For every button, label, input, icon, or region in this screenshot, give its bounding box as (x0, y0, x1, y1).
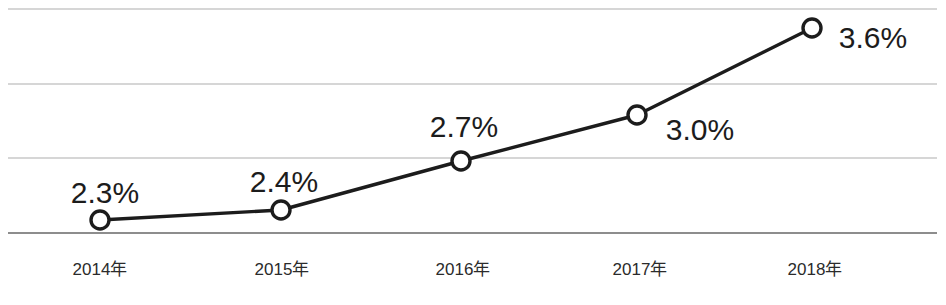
data-value-labels-group: 2.3%2.4%2.7%3.0%3.6% (71, 21, 907, 209)
data-value-label: 2.3% (71, 176, 139, 209)
x-axis-tick-label: 2015年 (255, 260, 310, 279)
line-chart-container: 2.3%2.4%2.7%3.0%3.6% 2014年2015年2016年2017… (0, 0, 946, 305)
data-point-marker[interactable] (91, 211, 109, 229)
data-value-label: 3.0% (666, 113, 734, 146)
x-axis-tick-label: 2018年 (788, 260, 843, 279)
x-axis-tick-label: 2016年 (436, 260, 491, 279)
data-point-marker[interactable] (803, 19, 821, 37)
data-value-label: 3.6% (839, 21, 907, 54)
x-axis-tick-label: 2017年 (613, 260, 668, 279)
line-chart-svg: 2.3%2.4%2.7%3.0%3.6% 2014年2015年2016年2017… (0, 0, 946, 305)
data-point-marker[interactable] (628, 106, 646, 124)
data-value-label: 2.7% (430, 110, 498, 143)
data-point-marker[interactable] (272, 201, 290, 219)
x-axis-tick-label: 2014年 (73, 260, 128, 279)
data-point-marker[interactable] (452, 152, 470, 170)
data-value-label: 2.4% (250, 165, 318, 198)
x-axis-tick-labels-group: 2014年2015年2016年2017年2018年 (73, 260, 843, 279)
